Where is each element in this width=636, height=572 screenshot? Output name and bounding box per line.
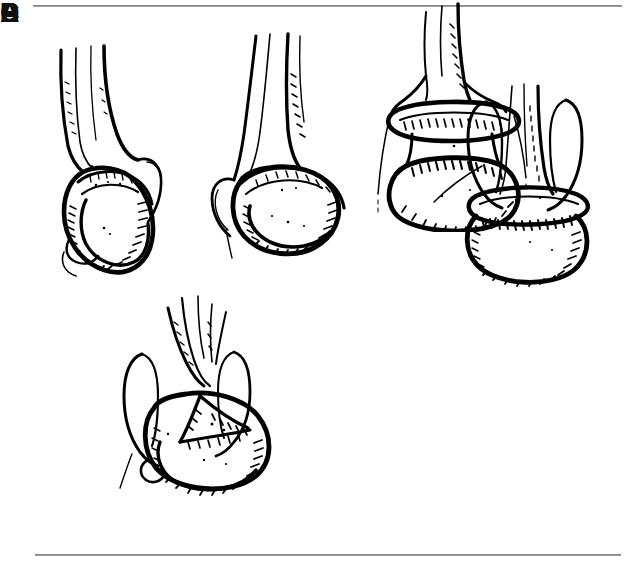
bone-illustration-d [108,292,308,522]
figure-panel-a [34,42,194,282]
figure-panel-b [196,30,366,280]
bone-illustration-a [34,42,194,282]
figure-panel-e [366,0,576,232]
figure-panel-d [108,292,308,522]
panel-label-e: E [0,0,17,26]
bone-illustration-e [366,0,576,232]
bone-illustration-b [196,30,366,280]
figure-plate: A [0,0,636,572]
bottom-divider-rule [35,554,621,556]
